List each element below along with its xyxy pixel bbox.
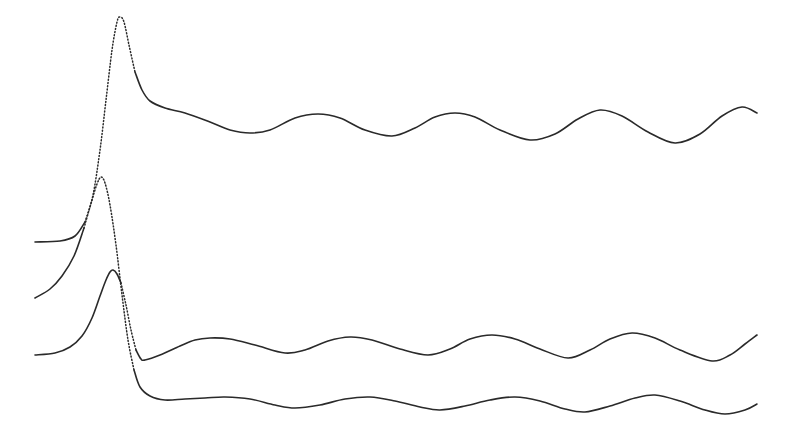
trace-middle-line [35, 228, 757, 414]
trace-lower-line [35, 270, 757, 361]
trace-top-peak-dotted [85, 17, 135, 222]
trace-top-line [35, 72, 757, 242]
waveform-chart [0, 0, 794, 437]
trace-group [35, 17, 757, 414]
